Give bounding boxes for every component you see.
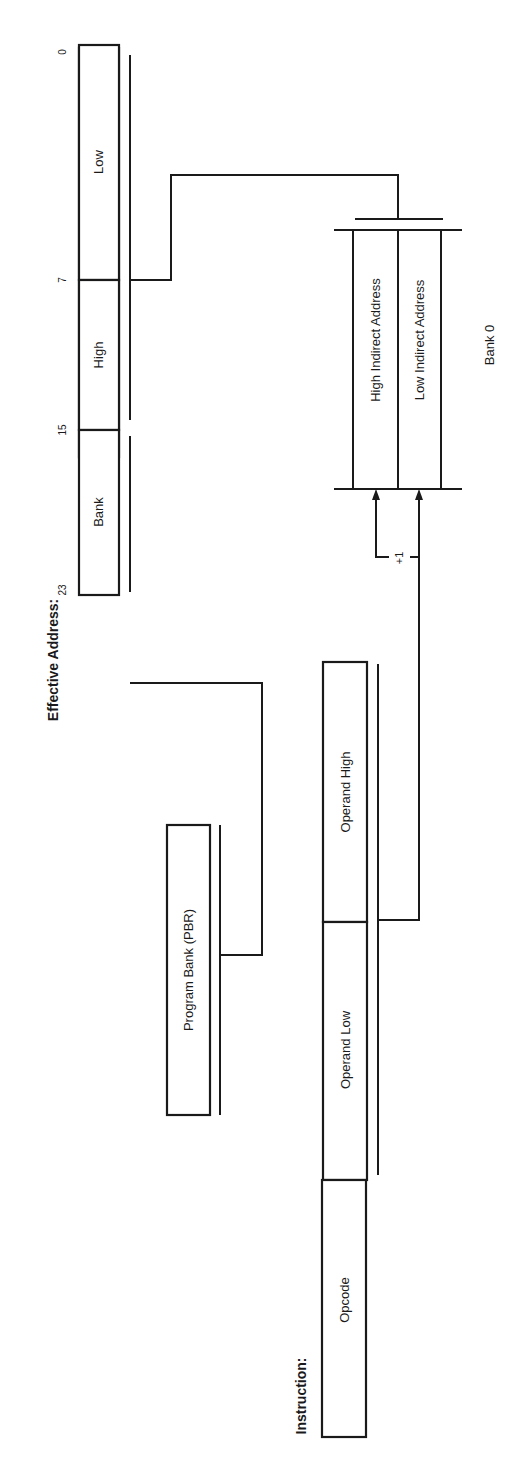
- bit-label-7: 7: [57, 277, 68, 283]
- ea-label-bank: Bank: [91, 497, 106, 527]
- opcode-label: Opcode: [337, 1277, 352, 1323]
- arrow-up-icon: [415, 489, 423, 500]
- bit-label-0: 0: [57, 49, 68, 55]
- operand-high-label: Operand High: [338, 752, 353, 833]
- increment-label: +1: [393, 552, 405, 565]
- ea-label-high: High: [91, 342, 106, 369]
- program-bank-label: Program Bank (PBR): [181, 909, 196, 1031]
- bit-label-15: 15: [57, 424, 68, 436]
- bit-label-23: 23: [57, 584, 68, 596]
- operand-to-low-indirect-connector: [409, 497, 419, 920]
- high-indirect-address-label: High Indirect Address: [368, 278, 383, 402]
- high-to-bank0-connector: [130, 175, 398, 280]
- low-indirect-address-label: Low Indirect Address: [412, 279, 427, 400]
- increment-branch-left: [376, 497, 389, 557]
- arrow-up-icon: [372, 489, 380, 500]
- bank0-label: Bank 0: [482, 325, 497, 365]
- instruction-title: Instruction:: [293, 1358, 309, 1435]
- ea-label-low: Low: [91, 149, 106, 173]
- bank0-memory: [334, 219, 462, 489]
- effective-address-title: Effective Address:: [45, 599, 61, 721]
- operand-low-label: Operand Low: [338, 1010, 353, 1089]
- diagram-canvas: Low High Bank 0 7 15 23 Effective Addres…: [0, 0, 512, 1483]
